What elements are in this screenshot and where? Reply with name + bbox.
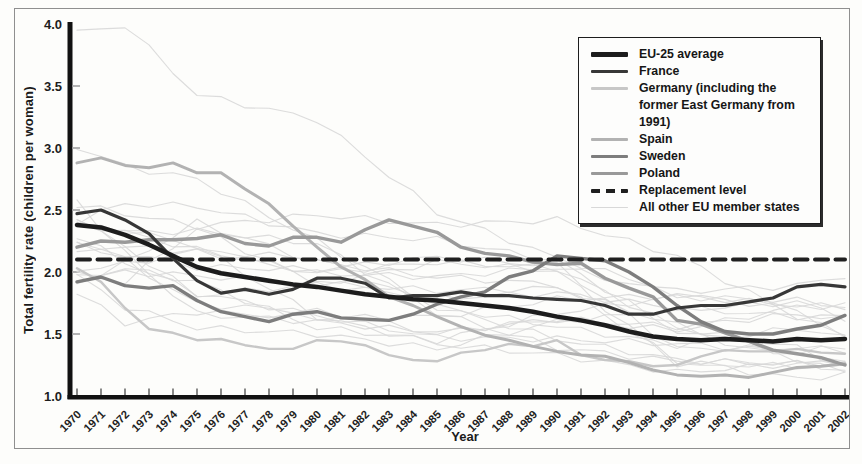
x-tick-label: 1978 — [249, 408, 275, 434]
x-tick-label: 1992 — [585, 408, 611, 434]
legend-item: All other EU member states — [591, 199, 812, 216]
x-tick-label: 1990 — [537, 408, 563, 434]
x-tick-label: 1975 — [177, 408, 203, 434]
x-tick-label: 1996 — [681, 408, 707, 434]
legend-item: Germany (including the former East Germa… — [591, 80, 812, 131]
chart-legend: EU-25 averageFranceGermany (including th… — [578, 37, 821, 224]
x-tick-label: 1999 — [753, 408, 779, 434]
legend-swatch-line — [591, 87, 628, 89]
legend-item: Replacement level — [591, 182, 812, 199]
x-tick-label: 1983 — [369, 408, 395, 434]
legend-label: EU-25 average — [639, 46, 812, 63]
legend-label: Replacement level — [639, 182, 812, 199]
x-tick-label: 1994 — [633, 407, 660, 434]
x-tick-label: 2001 — [801, 408, 827, 434]
legend-items: EU-25 averageFranceGermany (including th… — [591, 46, 812, 216]
legend-label: Poland — [639, 165, 812, 182]
legend-item: France — [591, 63, 812, 80]
legend-swatch-line — [591, 189, 628, 193]
legend-swatch-line — [591, 207, 628, 209]
fertility-rate-figure: 1.01.52.02.53.03.54.01970197119721973197… — [0, 0, 862, 464]
y-tick-label: 4.0 — [44, 17, 62, 32]
x-tick-label: 1998 — [729, 408, 755, 434]
legend-label: Spain — [639, 131, 812, 148]
x-tick-label: 1979 — [273, 408, 299, 434]
legend-swatch-line — [591, 172, 628, 175]
y-tick-label: 3.5 — [44, 79, 62, 94]
x-tick-label: 1980 — [297, 408, 323, 434]
y-tick-label: 3.0 — [44, 141, 62, 156]
y-tick-label: 2.0 — [44, 265, 62, 280]
x-tick-label: 1989 — [513, 408, 539, 434]
y-tick-label: 1.5 — [44, 327, 62, 342]
legend-item: Sweden — [591, 148, 812, 165]
x-tick-label: 1995 — [657, 408, 683, 434]
legend-label: All other EU member states — [639, 199, 812, 216]
x-tick-label: 1973 — [129, 408, 155, 434]
x-tick-label: 1997 — [705, 408, 731, 434]
legend-label: Sweden — [639, 148, 812, 165]
legend-label: France — [639, 63, 812, 80]
legend-swatch-line — [591, 155, 628, 158]
x-tick-label: 1976 — [201, 408, 227, 434]
x-tick-label: 2000 — [777, 408, 803, 434]
x-tick-label: 1971 — [81, 408, 107, 434]
legend-item: EU-25 average — [591, 46, 812, 63]
x-tick-label: 1982 — [345, 408, 371, 434]
x-tick-label: 1970 — [57, 408, 83, 434]
x-tick-label: 1974 — [153, 407, 180, 434]
x-tick-label: 1984 — [393, 407, 420, 434]
x-axis-title: Year — [420, 429, 510, 444]
legend-swatch-line — [591, 70, 628, 73]
legend-swatch-line — [591, 138, 628, 141]
legend-item: Spain — [591, 131, 812, 148]
y-tick-label: 2.5 — [44, 203, 62, 218]
x-tick-label: 2002 — [825, 408, 851, 434]
x-tick-label: 1977 — [225, 408, 251, 434]
x-tick-label: 1993 — [609, 408, 635, 434]
legend-item: Poland — [591, 165, 812, 182]
legend-swatch-line — [591, 52, 628, 57]
x-tick-label: 1972 — [105, 408, 131, 434]
legend-label: Germany (including the former East Germa… — [639, 80, 812, 131]
x-tick-label: 1981 — [321, 408, 347, 434]
y-tick-label: 1.0 — [44, 389, 62, 404]
x-tick-label: 1991 — [561, 408, 587, 434]
y-axis-title: Total fertility rate (children per woman… — [16, 24, 40, 396]
